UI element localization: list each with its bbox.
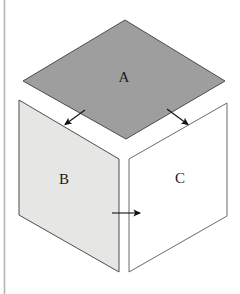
figure-canvas: B C A — [0, 0, 240, 294]
face-b-label: B — [59, 171, 69, 187]
isometric-faces-figure: B C A — [0, 0, 240, 294]
arrow-a-to-c — [167, 109, 188, 125]
arrow-a-to-b — [65, 110, 85, 125]
face-a-label: A — [119, 69, 130, 85]
face-c-label: C — [175, 170, 185, 186]
